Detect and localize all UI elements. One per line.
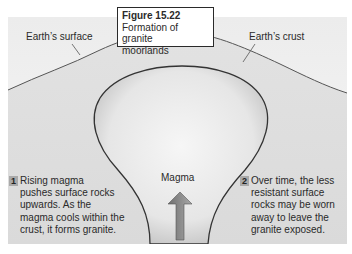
step-2-badge: 2 (240, 176, 249, 186)
figure-number: Figure 15.22 (122, 10, 209, 22)
step-2-line: away to leave the (240, 212, 350, 224)
step-2-line: resistant surface (240, 187, 350, 199)
step-1-line: upwards. As the (9, 199, 149, 211)
figure-caption: Figure 15.22 Formation of granite moorla… (117, 7, 214, 47)
figure-title-line2: moorlands (122, 45, 209, 57)
earth-surface-label: Earth’s surface (26, 31, 93, 43)
earth-crust-label: Earth’s crust (249, 31, 304, 43)
figure-title-line1: Formation of granite (122, 22, 209, 45)
step-1-line: crust, it forms granite. (9, 224, 149, 236)
step-2-line: rocks may be worn (240, 199, 350, 211)
magma-label: Magma (161, 172, 194, 184)
step-2-line: granite exposed. (240, 224, 350, 236)
step-1-badge: 1 (9, 176, 18, 186)
step-1-line: magma cools within the (9, 212, 149, 224)
step-1-line: Rising magma (9, 175, 149, 187)
step-1: 1 Rising magma pushes surface rocks upwa… (9, 175, 149, 236)
step-2: 2 Over time, the less resistant surface … (240, 175, 350, 236)
step-1-line: pushes surface rocks (9, 187, 149, 199)
step-2-line: Over time, the less (240, 175, 350, 187)
